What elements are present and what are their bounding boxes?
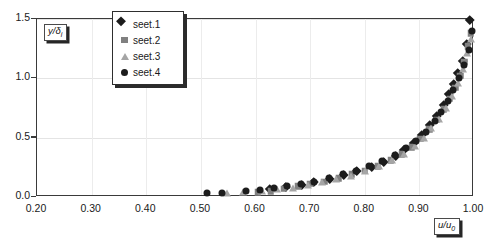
data-point xyxy=(403,145,410,152)
circle-marker-icon xyxy=(379,158,386,165)
y-tick-label: 1.0 xyxy=(0,70,30,82)
circle-marker-icon xyxy=(242,188,249,195)
y-tick-label: 0.0 xyxy=(0,189,30,201)
x-tick-label: 0.40 xyxy=(123,202,167,214)
triangle-marker-icon xyxy=(467,36,475,43)
gridline-horizontal xyxy=(37,19,472,20)
circle-marker-icon xyxy=(204,190,211,197)
circle-marker-icon xyxy=(366,163,373,170)
data-point xyxy=(470,19,477,26)
x-axis-label-sub: 0 xyxy=(451,225,455,232)
x-tick-label: 0.60 xyxy=(233,202,277,214)
diamond-legend-icon xyxy=(118,21,131,28)
data-point xyxy=(284,183,291,190)
gridline-vertical xyxy=(419,19,420,195)
circle-legend-icon xyxy=(118,69,131,76)
data-point xyxy=(467,36,475,43)
y-tick-label: 0.5 xyxy=(0,130,30,142)
data-point xyxy=(242,188,249,195)
chart-legend: seet.1seet.2seet.3seet.4 xyxy=(112,11,184,85)
circle-marker-icon xyxy=(256,186,263,193)
circle-marker-icon xyxy=(450,87,457,94)
data-point xyxy=(339,171,346,178)
gridline-horizontal xyxy=(37,138,472,139)
y-tick-mark xyxy=(31,18,36,20)
circle-marker-icon xyxy=(465,46,472,53)
x-tick-label: 0.30 xyxy=(69,202,113,214)
data-point xyxy=(311,178,318,185)
data-point xyxy=(438,108,445,115)
circle-marker-icon xyxy=(325,175,332,182)
x-tick-label: 1.00 xyxy=(451,202,495,214)
gridline-vertical xyxy=(92,19,93,195)
y-axis-label-text: y/δ xyxy=(48,25,61,36)
y-tick-mark xyxy=(31,136,36,138)
chart-figure: 0.00.51.01.5 0.200.300.400.500.600.700.8… xyxy=(0,0,502,245)
data-point xyxy=(204,190,211,197)
gridline-vertical xyxy=(310,19,311,195)
gridline-horizontal xyxy=(37,78,472,79)
circle-marker-icon xyxy=(460,62,467,69)
data-point xyxy=(422,128,429,135)
circle-marker-icon xyxy=(271,184,278,191)
data-point xyxy=(298,180,305,187)
circle-marker-icon xyxy=(469,27,476,34)
diamond-marker-icon xyxy=(466,15,475,24)
data-point xyxy=(460,62,467,69)
data-point xyxy=(450,87,457,94)
circle-marker-icon xyxy=(392,152,399,159)
legend-item-label: seet.2 xyxy=(133,35,160,46)
circle-marker-icon xyxy=(311,178,318,185)
data-point xyxy=(256,186,263,193)
circle-marker-icon xyxy=(403,145,410,152)
y-tick-mark xyxy=(31,77,36,79)
y-axis-label-sub: i xyxy=(61,31,63,38)
legend-item-label: seet.3 xyxy=(133,51,160,62)
x-axis-label: u/u0 xyxy=(434,218,460,235)
gridline-vertical xyxy=(256,19,257,195)
legend-item-label: seet.4 xyxy=(133,67,160,78)
data-point xyxy=(413,138,420,145)
x-tick-label: 0.20 xyxy=(14,202,58,214)
legend-item-seet-4[interactable]: seet.4 xyxy=(118,64,179,80)
circle-marker-icon xyxy=(444,97,451,104)
circle-marker-icon xyxy=(413,138,420,145)
data-point xyxy=(379,158,386,165)
circle-marker-icon xyxy=(438,108,445,115)
triangle-legend-icon xyxy=(118,53,131,60)
data-point xyxy=(353,167,360,174)
data-point xyxy=(455,75,462,82)
legend-item-seet-2[interactable]: seet.2 xyxy=(118,32,179,48)
circle-marker-icon xyxy=(455,75,462,82)
data-point xyxy=(366,163,373,170)
gridline-vertical xyxy=(201,19,202,195)
data-point xyxy=(218,190,225,197)
circle-marker-icon xyxy=(422,128,429,135)
circle-marker-icon xyxy=(339,171,346,178)
legend-item-seet-3[interactable]: seet.3 xyxy=(118,48,179,64)
x-tick-label: 0.70 xyxy=(287,202,331,214)
data-point xyxy=(325,175,332,182)
data-point xyxy=(431,118,438,125)
circle-marker-icon xyxy=(353,167,360,174)
legend-item-seet-1[interactable]: seet.1 xyxy=(118,16,179,32)
y-tick-label: 1.5 xyxy=(0,11,30,23)
data-point xyxy=(469,27,476,34)
x-tick-label: 0.90 xyxy=(396,202,440,214)
y-tick-mark xyxy=(31,196,36,198)
legend-item-label: seet.1 xyxy=(133,19,160,30)
x-tick-label: 0.80 xyxy=(342,202,386,214)
circle-marker-icon xyxy=(284,183,291,190)
data-point xyxy=(271,184,278,191)
y-axis-label: y/δi xyxy=(44,24,67,41)
circle-marker-icon xyxy=(431,118,438,125)
x-tick-label: 0.50 xyxy=(178,202,222,214)
plot-area xyxy=(36,18,473,196)
data-point xyxy=(392,152,399,159)
data-point xyxy=(444,97,451,104)
circle-marker-icon xyxy=(298,180,305,187)
square-legend-icon xyxy=(118,37,131,44)
data-point xyxy=(465,46,472,53)
x-axis-label-text: u/u xyxy=(438,219,451,230)
circle-marker-icon xyxy=(218,190,225,197)
